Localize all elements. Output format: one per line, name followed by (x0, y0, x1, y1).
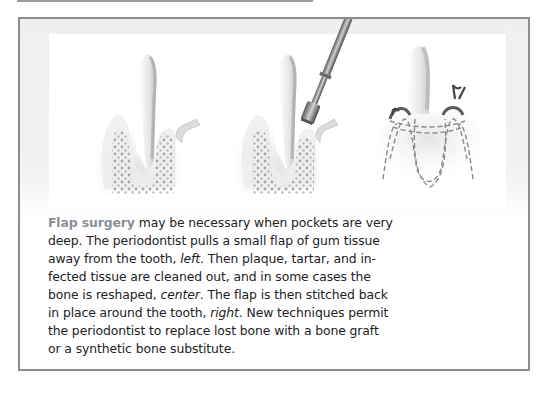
caption-line: or a synthetic bone substitute. (48, 340, 348, 358)
caption-line: bone is reshaped, center. The flap is th… (48, 286, 348, 304)
sutured-tooth-illustration (355, 19, 505, 199)
caption-lead-term: Flap surgery (48, 215, 135, 230)
figure-caption: Flap surgery may be necessary when pocke… (48, 214, 348, 358)
figure-box: Flap surgery may be necessary when pocke… (18, 17, 530, 371)
caption-ref-right: right (210, 305, 239, 320)
caption-line: the periodontist to replace lost bone wi… (48, 322, 348, 340)
caption-ref-center: center (160, 287, 199, 302)
caption-line: away from the tooth, left. Then plaque, … (48, 250, 348, 268)
dental-bur-icon (300, 19, 355, 125)
top-rule (17, 0, 313, 2)
caption-line: deep. The periodontist pulls a small fla… (48, 232, 348, 250)
caption-line: in place around the tooth, right. New te… (48, 304, 348, 322)
caption-ref-left: left (180, 251, 200, 266)
caption-line: fected tissue are cleaned out, and in so… (48, 268, 348, 286)
dental-bur-instrument-illustration (200, 19, 380, 199)
caption-line: Flap surgery may be necessary when pocke… (48, 214, 348, 232)
